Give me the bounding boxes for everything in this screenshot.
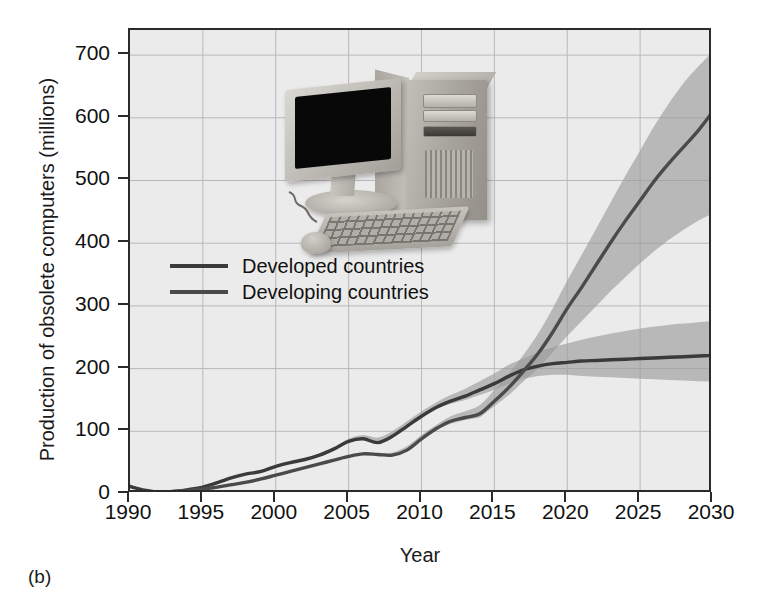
y-tick-mark bbox=[118, 115, 129, 117]
plot-area: Developed countries Developing countries bbox=[128, 28, 711, 492]
x-tick-mark bbox=[564, 492, 566, 502]
uncertainty-band-developed bbox=[130, 321, 711, 492]
y-tick-label: 400 bbox=[56, 229, 110, 253]
y-tick-mark bbox=[118, 303, 129, 305]
y-tick-mark bbox=[118, 240, 129, 242]
x-tick-label: 2030 bbox=[671, 500, 751, 524]
y-tick-label: 100 bbox=[56, 417, 110, 441]
x-tick-mark bbox=[419, 492, 421, 502]
y-tick-label: 600 bbox=[56, 104, 110, 128]
y-tick-label: 300 bbox=[56, 292, 110, 316]
figure-panel-b: Production of obsolete computers (millio… bbox=[0, 0, 774, 606]
y-tick-label: 700 bbox=[56, 41, 110, 65]
x-tick-label: 2020 bbox=[525, 500, 605, 524]
x-tick-label: 2000 bbox=[234, 500, 314, 524]
x-tick-label: 1995 bbox=[161, 500, 241, 524]
x-tick-mark bbox=[346, 492, 348, 502]
x-tick-label: 2025 bbox=[598, 500, 678, 524]
x-axis-label: Year bbox=[128, 544, 712, 567]
x-tick-mark bbox=[273, 492, 275, 502]
computer-mouse bbox=[301, 232, 331, 254]
y-tick-mark bbox=[118, 52, 129, 54]
y-tick-label: 200 bbox=[56, 355, 110, 379]
legend-item-developing: Developing countries bbox=[170, 280, 429, 304]
x-tick-label: 2005 bbox=[307, 500, 387, 524]
y-tick-mark bbox=[118, 177, 129, 179]
y-tick-label: 500 bbox=[56, 166, 110, 190]
legend-item-developed: Developed countries bbox=[170, 254, 429, 278]
legend-swatch-developed bbox=[170, 264, 228, 268]
x-tick-mark bbox=[127, 492, 129, 502]
chart-legend: Developed countries Developing countries bbox=[170, 254, 429, 306]
desktop-computer-photo bbox=[275, 72, 533, 270]
x-tick-label: 2015 bbox=[452, 500, 532, 524]
x-tick-mark bbox=[491, 492, 493, 502]
x-tick-mark bbox=[710, 492, 712, 502]
y-tick-mark bbox=[118, 366, 129, 368]
y-axis-tick-labels: 0100200300400500600700 bbox=[50, 28, 110, 492]
panel-caption: (b) bbox=[28, 566, 51, 588]
x-tick-mark bbox=[637, 492, 639, 502]
x-tick-mark bbox=[200, 492, 202, 502]
legend-label-developing: Developing countries bbox=[242, 281, 429, 304]
x-tick-label: 2010 bbox=[380, 500, 460, 524]
x-tick-label: 1990 bbox=[88, 500, 168, 524]
legend-label-developed: Developed countries bbox=[242, 255, 424, 278]
legend-swatch-developing bbox=[170, 290, 228, 294]
y-tick-mark bbox=[118, 428, 129, 430]
